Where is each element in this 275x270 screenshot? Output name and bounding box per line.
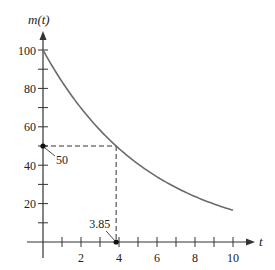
- annotation-385: 3.85: [89, 217, 110, 231]
- leader-line: [106, 231, 114, 240]
- x-tick-label: 2: [78, 251, 84, 265]
- decay-chart: 24681020406080100 503.85 m(t) t: [0, 0, 275, 270]
- annotation-50: 50: [56, 153, 68, 167]
- point-m50: [40, 143, 45, 148]
- y-tick-label: 60: [24, 120, 36, 134]
- x-tick-label: 8: [192, 251, 198, 265]
- y-axis-label: m(t): [28, 12, 50, 27]
- x-axis-label: t: [259, 234, 263, 249]
- y-axis-arrow-icon: [40, 31, 47, 40]
- decay-curve: [43, 50, 233, 210]
- ticks: 24681020406080100: [18, 44, 239, 266]
- marked-points: 503.85: [40, 143, 118, 244]
- y-tick-label: 20: [24, 197, 36, 211]
- y-tick-label: 100: [18, 44, 36, 58]
- x-axis-arrow-icon: [246, 239, 255, 246]
- point-t385: [114, 239, 119, 244]
- x-tick-label: 10: [227, 251, 239, 265]
- x-tick-label: 4: [116, 251, 122, 265]
- x-tick-label: 6: [154, 251, 160, 265]
- y-tick-label: 80: [24, 82, 36, 96]
- axes: [27, 31, 255, 258]
- leader-line: [45, 148, 55, 156]
- y-tick-label: 40: [24, 159, 36, 173]
